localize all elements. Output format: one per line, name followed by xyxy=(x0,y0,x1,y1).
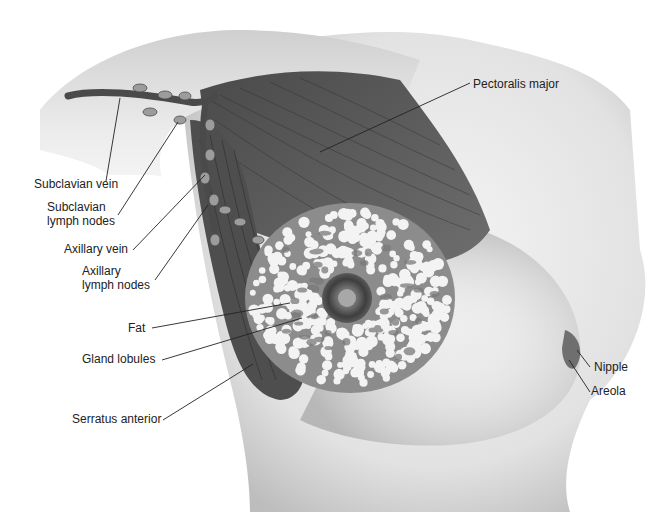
fat-globule xyxy=(396,334,405,343)
fat-globule xyxy=(405,329,411,335)
fat-globule xyxy=(353,324,361,332)
gland-lobule xyxy=(392,319,399,326)
gland-lobule xyxy=(365,249,372,257)
label-axillary-lymph-nodes-line1: Axillary xyxy=(82,264,150,278)
label-areola: Areola xyxy=(591,384,626,398)
fat-globule xyxy=(316,375,326,385)
gland-lobule xyxy=(314,337,325,342)
label-nipple: Nipple xyxy=(594,360,628,374)
fat-globule xyxy=(421,295,428,302)
fat-globule xyxy=(432,258,444,270)
fat-globule xyxy=(367,371,374,378)
fat-globule xyxy=(342,361,350,369)
fat-globule xyxy=(442,295,452,305)
label-subclavian-vein: Subclavian vein xyxy=(34,177,118,191)
fat-globule xyxy=(338,231,350,243)
fat-globule xyxy=(299,356,305,362)
label-gland-lobules: Gland lobules xyxy=(82,352,155,366)
fat-globule xyxy=(378,264,386,272)
fat-globule xyxy=(410,295,418,303)
fat-globule xyxy=(259,276,267,284)
fat-globule xyxy=(289,346,298,355)
fat-globule xyxy=(264,246,273,255)
fat-globule xyxy=(421,264,430,273)
fat-globule xyxy=(276,308,287,319)
gland-lobule xyxy=(404,347,416,355)
fat-globule xyxy=(416,273,427,284)
fat-globule xyxy=(430,322,442,334)
label-subclavian-lymph-nodes: Subclavian lymph nodes xyxy=(47,200,115,228)
gland-lobule xyxy=(318,231,331,236)
fat-globule xyxy=(390,261,397,268)
fat-globule xyxy=(253,280,260,287)
fat-globule xyxy=(362,212,369,219)
label-axillary-lymph-nodes-line2: lymph nodes xyxy=(82,278,150,292)
gland-lobule xyxy=(312,286,319,292)
gland-lobule xyxy=(313,248,324,253)
fat-globule xyxy=(306,231,312,237)
gland-lobule xyxy=(373,328,383,333)
fat-globule xyxy=(283,235,293,245)
fat-globule xyxy=(250,290,256,296)
fat-globule xyxy=(410,264,419,273)
fat-globule xyxy=(279,333,290,344)
gland-lobule xyxy=(380,294,392,300)
label-subclavian-lymph-nodes-line1: Subclavian xyxy=(47,200,115,214)
fat-globule xyxy=(343,368,350,375)
gland-lobule xyxy=(290,298,299,304)
fat-globule xyxy=(389,363,399,373)
gland-lobule xyxy=(297,287,307,292)
fat-globule xyxy=(436,280,442,286)
gland-lobule xyxy=(310,313,318,319)
fat-globule xyxy=(440,313,449,322)
fat-globule xyxy=(415,252,423,260)
gland-lobule xyxy=(430,291,440,297)
fat-globule xyxy=(392,218,399,225)
gland-lobule xyxy=(414,287,424,292)
gland-lobule xyxy=(282,329,291,334)
gland-lobule xyxy=(395,354,402,360)
fat-globule xyxy=(422,240,431,249)
gland-lobule xyxy=(291,310,304,318)
gland-lobule xyxy=(314,278,324,285)
fat-globule xyxy=(298,267,307,276)
fat-globule xyxy=(368,262,375,269)
fat-globule xyxy=(393,255,399,261)
gland-lobule xyxy=(321,267,328,274)
fat-globule xyxy=(323,336,333,346)
gland-lobule xyxy=(299,335,310,340)
fat-globule xyxy=(252,311,260,319)
fat-globule xyxy=(365,320,372,327)
fat-globule xyxy=(297,362,306,371)
label-serratus-anterior: Serratus anterior xyxy=(72,412,161,426)
fat-globule xyxy=(384,334,395,345)
fat-globule xyxy=(350,368,360,378)
gland-lobule xyxy=(342,338,350,346)
fat-globule xyxy=(272,252,282,262)
fat-globule xyxy=(390,276,401,287)
fat-globule xyxy=(322,360,332,370)
fat-globule xyxy=(359,379,367,387)
gland-lobule xyxy=(352,250,363,256)
fat-globule xyxy=(386,230,396,240)
gland-lobule xyxy=(380,309,389,315)
gland-lobule xyxy=(294,321,303,325)
fat-globule xyxy=(367,230,378,241)
fat-globule xyxy=(398,361,407,370)
fat-globule xyxy=(443,305,451,313)
gland-lobule xyxy=(360,260,369,266)
breast-anatomy-illustration xyxy=(0,0,659,512)
fat-globule xyxy=(356,224,363,231)
gland-lobule xyxy=(404,260,416,265)
fat-globule xyxy=(399,269,411,281)
fat-globule xyxy=(370,225,377,232)
fat-globule xyxy=(344,222,353,231)
fat-globule xyxy=(343,209,353,219)
label-pectoralis-major: Pectoralis major xyxy=(473,77,559,91)
fat-globule xyxy=(346,353,356,363)
fat-globule xyxy=(316,324,323,331)
fat-globule xyxy=(343,256,353,266)
fat-globule xyxy=(274,277,285,288)
fat-globule xyxy=(431,333,440,342)
gland-lobule xyxy=(324,346,332,350)
